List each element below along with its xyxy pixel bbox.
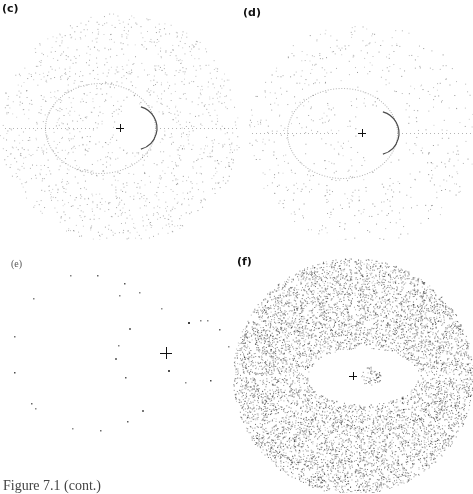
panel-label-c: (c): [2, 2, 19, 15]
dot-plot-f: [220, 240, 473, 493]
figure-caption: Figure 7.1 (cont.): [3, 478, 101, 494]
panel-e: (e): [0, 240, 240, 480]
dot-plot-c: [0, 0, 240, 240]
panel-d: (d): [240, 0, 473, 240]
dot-plot-e: [0, 240, 240, 480]
panel-label-f: (f): [237, 255, 252, 268]
dot-plot-d: [240, 0, 473, 240]
panel-c: (c): [0, 0, 240, 240]
panel-f: (f): [220, 240, 473, 493]
panel-label-d: (d): [243, 6, 261, 19]
panel-label-e: (e): [11, 258, 22, 269]
